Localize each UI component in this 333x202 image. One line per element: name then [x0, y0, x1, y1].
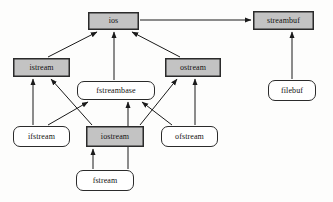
node-filebuf-label: filebuf [281, 87, 303, 95]
node-ios[interactable]: ios [88, 12, 139, 30]
node-istream[interactable]: istream [13, 58, 70, 77]
node-fstream[interactable]: fstream [76, 170, 134, 191]
node-ostream[interactable]: ostream [165, 58, 221, 77]
node-ios-label: ios [109, 17, 119, 25]
node-filebuf[interactable]: filebuf [268, 80, 316, 101]
edge-ofstream-to-fstreambase [142, 102, 172, 125]
node-streambuf[interactable]: streambuf [253, 11, 314, 30]
node-ostream-label: ostream [180, 64, 206, 72]
node-iostream-label: iostream [101, 133, 129, 141]
node-iostream[interactable]: iostream [86, 126, 144, 147]
node-fstream-label: fstream [93, 177, 118, 185]
edge-layer [0, 0, 333, 202]
node-fstreambase[interactable]: fstreambase [77, 81, 155, 100]
node-istream-label: istream [29, 64, 53, 72]
node-ofstream[interactable]: ofstream [161, 126, 218, 147]
node-streambuf-label: streambuf [267, 17, 300, 25]
edge-istream-to-ios [48, 32, 97, 57]
node-ifstream[interactable]: ifstream [13, 126, 70, 147]
node-ofstream-label: ofstream [175, 133, 204, 141]
class-hierarchy-diagram: ios streambuf istream ostream fstreambas… [0, 0, 333, 202]
node-ifstream-label: ifstream [28, 133, 55, 141]
node-fstreambase-label: fstreambase [96, 87, 135, 95]
edge-ostream-to-ios [132, 32, 180, 57]
